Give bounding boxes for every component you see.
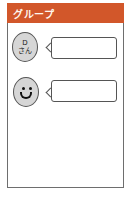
avatar[interactable]: D さん: [12, 32, 38, 62]
smiley-icon[interactable]: [13, 77, 39, 107]
chat-header: グループ: [7, 3, 124, 23]
avatar-suffix: さん: [13, 47, 37, 55]
mouth-icon: [20, 92, 32, 99]
avatar-initial: D: [13, 39, 37, 47]
eye-icon: [22, 87, 25, 90]
chat-title: グループ: [13, 6, 54, 21]
speech-bubble[interactable]: [51, 37, 117, 59]
eye-icon: [29, 87, 32, 90]
speech-bubble[interactable]: [51, 80, 117, 102]
